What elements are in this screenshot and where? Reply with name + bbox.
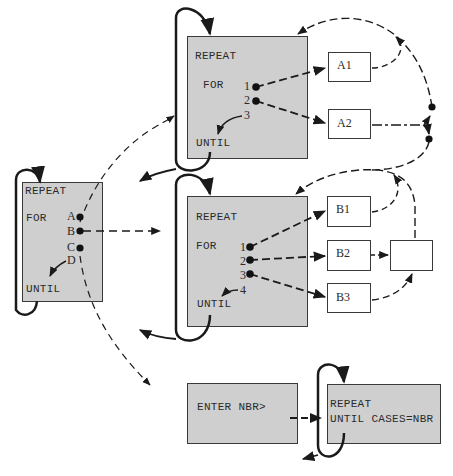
flow-arrows [0,0,453,476]
branch-dots [76,83,435,278]
